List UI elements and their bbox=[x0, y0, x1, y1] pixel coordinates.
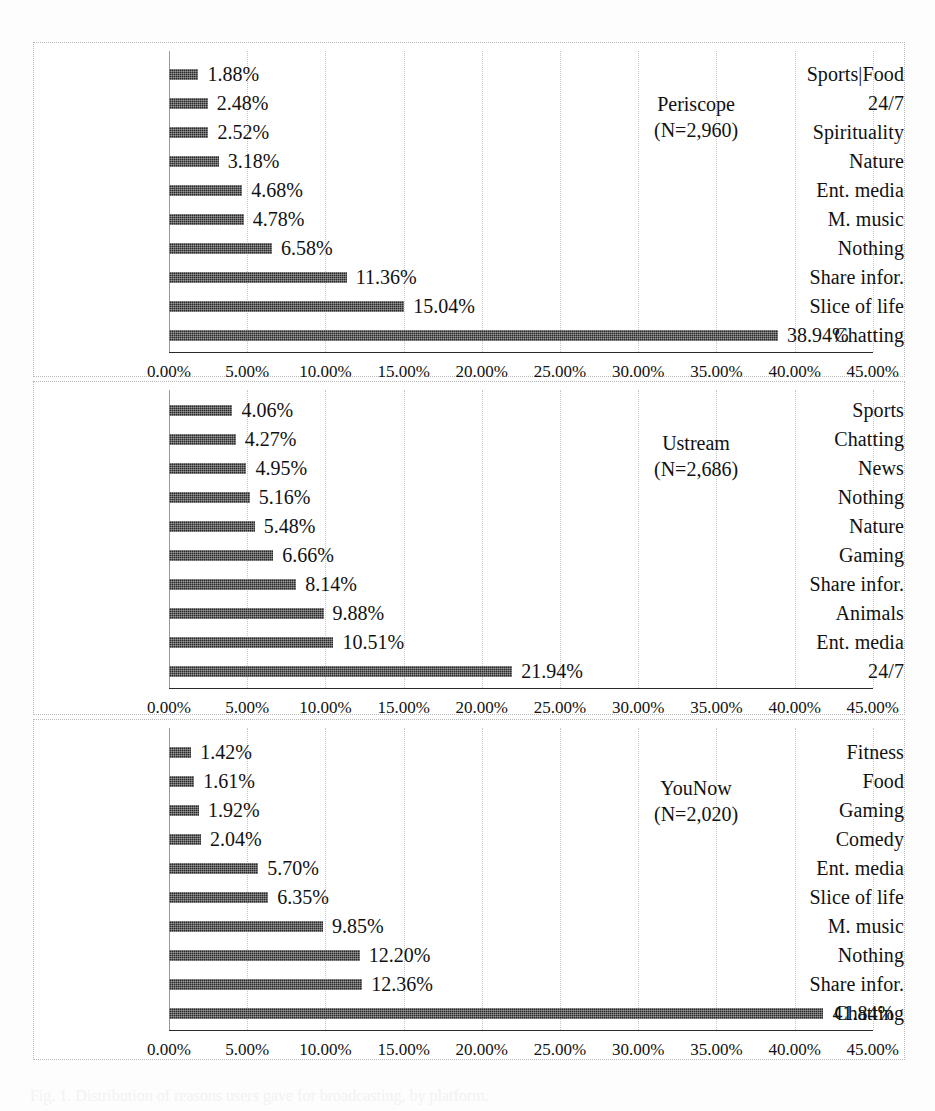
bar bbox=[169, 863, 258, 874]
chart-panel-periscope: Sports|Food1.88%24/72.48%Spirituality2.5… bbox=[33, 42, 905, 377]
x-axis-tick-label: 45.00% bbox=[847, 361, 899, 383]
bar bbox=[169, 805, 199, 816]
category-label: Comedy bbox=[781, 825, 904, 854]
series-annotation: Ustream(N=2,686) bbox=[654, 430, 738, 482]
bar-row: Nothing6.58% bbox=[34, 234, 904, 263]
bar-row: Ent. media5.70% bbox=[34, 854, 904, 883]
bar-value-label: 4.27% bbox=[245, 425, 297, 454]
chart-panel-younow: Fitness1.42%Food1.61%Gaming1.92%Comedy2.… bbox=[33, 719, 905, 1060]
series-sample-size: (N=2,020) bbox=[654, 801, 738, 827]
figure-page: Sports|Food1.88%24/72.48%Spirituality2.5… bbox=[0, 0, 935, 1111]
category-label: Fitness bbox=[781, 738, 904, 767]
x-axis-tick-label: 20.00% bbox=[456, 361, 508, 383]
bar-row: Spirituality2.52% bbox=[34, 118, 904, 147]
category-label: Gaming bbox=[781, 541, 904, 570]
bar-value-label: 4.78% bbox=[253, 205, 305, 234]
bar-row: Nature5.48% bbox=[34, 512, 904, 541]
category-label: 24/7 bbox=[781, 89, 904, 118]
bar bbox=[169, 747, 191, 758]
bar bbox=[169, 156, 219, 167]
bar-row: Chatting41.84% bbox=[34, 999, 904, 1028]
x-axis-tick-label: 45.00% bbox=[847, 1039, 899, 1061]
x-axis-tick-label: 10.00% bbox=[299, 1039, 351, 1061]
x-axis-tick-label: 5.00% bbox=[225, 697, 269, 719]
bar bbox=[169, 834, 201, 845]
bar-value-label: 1.61% bbox=[203, 767, 255, 796]
bar bbox=[169, 301, 404, 312]
bar bbox=[169, 521, 255, 532]
category-label: Ent. media bbox=[781, 854, 904, 883]
bar-value-label: 12.36% bbox=[371, 970, 433, 999]
bar-row: Share infor.11.36% bbox=[34, 263, 904, 292]
bar-row: Comedy2.04% bbox=[34, 825, 904, 854]
category-label: Share infor. bbox=[781, 263, 904, 292]
x-axis-tick-label: 35.00% bbox=[690, 697, 742, 719]
series-title: Ustream bbox=[654, 430, 738, 456]
plot-area: Fitness1.42%Food1.61%Gaming1.92%Comedy2.… bbox=[34, 720, 904, 1059]
category-label: Spirituality bbox=[781, 118, 904, 147]
bar-row: M. music9.85% bbox=[34, 912, 904, 941]
category-label: Sports|Food bbox=[781, 60, 904, 89]
x-axis-tick-label: 20.00% bbox=[456, 697, 508, 719]
series-sample-size: (N=2,686) bbox=[654, 456, 738, 482]
x-axis-tick-label: 15.00% bbox=[377, 361, 429, 383]
bar-value-label: 4.68% bbox=[251, 176, 303, 205]
axis-baseline bbox=[169, 1030, 873, 1031]
x-axis-tick-label: 30.00% bbox=[612, 361, 664, 383]
bar bbox=[169, 550, 273, 561]
x-axis-tick-label: 40.00% bbox=[768, 361, 820, 383]
x-axis-tick-label: 45.00% bbox=[847, 697, 899, 719]
bar-value-label: 15.04% bbox=[413, 292, 475, 321]
bar bbox=[169, 463, 246, 474]
bar-row: Chatting38.94% bbox=[34, 321, 904, 350]
bar-row: Ent. media10.51% bbox=[34, 628, 904, 657]
bar-row: Sports4.06% bbox=[34, 396, 904, 425]
series-title: Periscope bbox=[654, 91, 738, 117]
chart-panel-ustream: Sports4.06%Chatting4.27%News4.95%Nothing… bbox=[33, 381, 905, 715]
bar-row: Share infor.8.14% bbox=[34, 570, 904, 599]
category-label: Nature bbox=[781, 147, 904, 176]
category-label: Nature bbox=[781, 512, 904, 541]
bar bbox=[169, 492, 250, 503]
x-axis-tick-label: 20.00% bbox=[456, 1039, 508, 1061]
bar-row: Nothing5.16% bbox=[34, 483, 904, 512]
x-axis-tick-label: 0.00% bbox=[147, 361, 191, 383]
bar-row: Share infor.12.36% bbox=[34, 970, 904, 999]
bar-value-label: 5.70% bbox=[267, 854, 319, 883]
series-sample-size: (N=2,960) bbox=[654, 117, 738, 143]
bar-value-label: 2.04% bbox=[210, 825, 262, 854]
bar-value-label: 11.36% bbox=[356, 263, 417, 292]
category-label: Nothing bbox=[781, 234, 904, 263]
bar-row: Ent. media4.68% bbox=[34, 176, 904, 205]
bar-row: Slice of life15.04% bbox=[34, 292, 904, 321]
x-axis-tick-label: 40.00% bbox=[768, 697, 820, 719]
bar bbox=[169, 921, 323, 932]
bar bbox=[169, 608, 324, 619]
bar-row: Sports|Food1.88% bbox=[34, 60, 904, 89]
category-label: News bbox=[781, 454, 904, 483]
category-label: Nothing bbox=[781, 483, 904, 512]
category-label: M. music bbox=[781, 205, 904, 234]
plot-area: Sports|Food1.88%24/72.48%Spirituality2.5… bbox=[34, 43, 904, 376]
x-axis-tick-label: 25.00% bbox=[534, 697, 586, 719]
x-axis-tick-label: 15.00% bbox=[377, 697, 429, 719]
category-label: Ent. media bbox=[781, 628, 904, 657]
bar-value-label: 1.88% bbox=[207, 60, 259, 89]
bar-row: Fitness1.42% bbox=[34, 738, 904, 767]
category-label: Gaming bbox=[781, 796, 904, 825]
bar-row: News4.95% bbox=[34, 454, 904, 483]
bar-value-label: 5.48% bbox=[264, 512, 316, 541]
bar-row: Food1.61% bbox=[34, 767, 904, 796]
bar-value-label: 2.48% bbox=[217, 89, 269, 118]
bar bbox=[169, 637, 333, 648]
bar-row: Chatting4.27% bbox=[34, 425, 904, 454]
category-label: Nothing bbox=[781, 941, 904, 970]
bar-value-label: 10.51% bbox=[342, 628, 404, 657]
bar-row: M. music4.78% bbox=[34, 205, 904, 234]
x-axis-tick-label: 30.00% bbox=[612, 1039, 664, 1061]
series-title: YouNow bbox=[654, 775, 738, 801]
bar-row: Animals9.88% bbox=[34, 599, 904, 628]
x-axis-tick-label: 0.00% bbox=[147, 697, 191, 719]
x-axis-tick-label: 35.00% bbox=[690, 361, 742, 383]
bar bbox=[169, 405, 232, 416]
